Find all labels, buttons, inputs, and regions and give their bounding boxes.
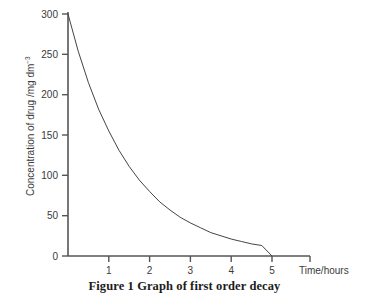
x-tick-label-4: 4 (228, 265, 234, 276)
axis-lines (68, 12, 310, 262)
x-axis-tick-labels: 1 2 3 4 5 (106, 265, 275, 276)
y-tick-label-100: 100 (41, 170, 58, 181)
y-axis-title-main: Concentration of drug /mg dm (25, 64, 36, 196)
x-tick-label-5: 5 (269, 265, 275, 276)
y-axis-title: Concentration of drug /mg dm−3 (24, 56, 36, 196)
x-tick-label-1: 1 (106, 265, 112, 276)
x-tick-label-2: 2 (147, 265, 153, 276)
figure-container: 0 50 100 150 200 250 300 1 2 3 4 5 Time/… (0, 0, 369, 299)
svg-text:Concentration of drug /mg dm−3: Concentration of drug /mg dm−3 (24, 56, 36, 196)
x-axis-title: Time/hours (299, 265, 349, 276)
y-axis-ticks (62, 14, 68, 256)
y-axis-title-superscript: −3 (24, 56, 31, 64)
y-axis-tick-labels: 0 50 100 150 200 250 300 (41, 9, 58, 262)
y-tick-label-200: 200 (41, 89, 58, 100)
decay-curve (68, 14, 272, 256)
decay-chart: 0 50 100 150 200 250 300 1 2 3 4 5 Time/… (0, 0, 369, 299)
y-tick-label-300: 300 (41, 9, 58, 20)
y-tick-label-0: 0 (52, 251, 58, 262)
y-tick-label-150: 150 (41, 130, 58, 141)
y-tick-label-250: 250 (41, 49, 58, 60)
x-tick-label-3: 3 (188, 265, 194, 276)
figure-caption: Figure 1 Graph of first order decay (0, 279, 369, 294)
x-axis-ticks (109, 256, 272, 262)
y-tick-label-50: 50 (47, 210, 59, 221)
